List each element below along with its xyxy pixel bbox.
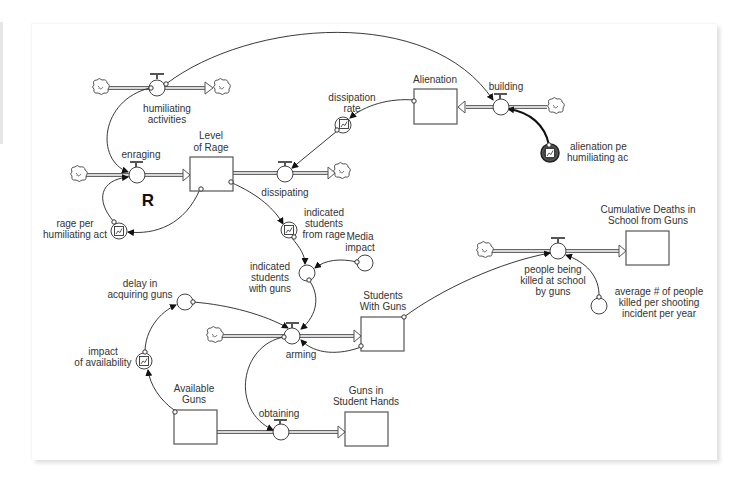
- reinforcing-loop-marker: R: [142, 191, 154, 210]
- converter-label: rate: [343, 103, 361, 114]
- flow-label: obtaining: [259, 408, 300, 419]
- valve-handle-icon: [551, 238, 565, 243]
- flow-label: dissipating: [261, 187, 308, 198]
- cloud-icon: [93, 79, 110, 95]
- converter-rage-per-act[interactable]: rage per humiliating act: [43, 218, 127, 240]
- converter-label: delay in: [123, 278, 157, 289]
- valve-handle-icon: [150, 74, 164, 79]
- cloud-icon: [548, 98, 565, 114]
- stock-label: With Guns: [360, 301, 407, 312]
- flow-humiliating-activities[interactable]: humiliating activities: [143, 74, 191, 125]
- valve-handle-icon: [494, 94, 507, 99]
- converter-label: with guns: [248, 283, 291, 294]
- converter-label: humiliating ac: [567, 152, 628, 163]
- flow-label: humiliating: [143, 103, 191, 114]
- flow-building[interactable]: building: [489, 81, 523, 115]
- stock-available-guns[interactable]: Available Guns: [173, 383, 217, 444]
- converter-avg-killed[interactable]: average # of people killed per shooting …: [591, 286, 704, 319]
- flow-label: arming: [286, 349, 317, 360]
- flow-label: activities: [148, 114, 186, 125]
- cloud-icon: [477, 242, 494, 258]
- converter-delay-acquiring[interactable]: delay in acquiring guns: [107, 278, 195, 310]
- flow-enraging[interactable]: enraging: [122, 149, 161, 183]
- converter-dissipation-rate[interactable]: dissipation rate: [328, 92, 375, 133]
- flow-label: building: [489, 81, 523, 92]
- converter-label: rage per: [56, 218, 94, 229]
- flow-obtaining[interactable]: obtaining: [259, 408, 300, 440]
- cloud-icon: [71, 166, 88, 182]
- converter-alienation-per-act[interactable]: alienation pe humiliating ac: [541, 141, 628, 163]
- stock-label: of Rage: [193, 142, 228, 153]
- flow-arming[interactable]: arming: [282, 323, 316, 360]
- converter-label: indicated: [304, 207, 344, 218]
- stock-flow-diagram: Level of Rage Alienation Students With G…: [0, 0, 749, 492]
- graph-icon: [340, 120, 349, 129]
- converter-impact-availability[interactable]: impact of availability: [74, 346, 152, 369]
- stock-label: Students: [363, 290, 402, 301]
- stock-label: Alienation: [413, 74, 457, 85]
- converter-label: average # of people: [615, 286, 704, 297]
- converter-label: humiliating act: [43, 229, 107, 240]
- converter-label: acquiring guns: [107, 289, 172, 300]
- converter-label: impact: [345, 242, 375, 253]
- stock-label: Available: [174, 383, 215, 394]
- flow-label: killed at school: [520, 275, 586, 286]
- stock-label: Guns: [182, 394, 206, 405]
- stock-guns-in-student-hands[interactable]: Guns in Student Hands: [333, 385, 399, 446]
- valve-handle-icon: [286, 323, 299, 328]
- stock-label: School from Guns: [608, 215, 688, 226]
- converter-label: students: [251, 272, 289, 283]
- graph-icon: [140, 357, 149, 366]
- stock-cumulative-deaths[interactable]: Cumulative Deaths in School from Guns: [600, 204, 695, 265]
- stock-label: Student Hands: [333, 396, 399, 407]
- graph-icon: [546, 149, 555, 158]
- cloud-icon: [214, 79, 231, 95]
- stock-students-with-guns[interactable]: Students With Guns: [359, 290, 407, 351]
- stock-alienation[interactable]: Alienation: [412, 74, 457, 124]
- flow-label: people being: [524, 264, 581, 275]
- converter-label: alienation pe: [570, 141, 627, 152]
- converter-label: dissipation: [328, 92, 375, 103]
- stock-label: Cumulative Deaths in: [600, 204, 695, 215]
- converter-label: from rage: [303, 229, 346, 240]
- converter-media-impact[interactable]: Media impact: [345, 231, 375, 271]
- converter-label: students: [305, 218, 343, 229]
- cloud-icon: [334, 163, 351, 179]
- cloud-icon: [207, 327, 224, 343]
- valve-handle-icon: [130, 162, 143, 167]
- flow-label: enraging: [122, 149, 161, 160]
- converter-indicated-from-rage[interactable]: indicated students from rage: [281, 207, 346, 240]
- stock-label: Guns in: [349, 385, 383, 396]
- converter-label: indicated: [250, 261, 290, 272]
- converter-label: incident per year: [622, 308, 697, 319]
- flow-label: by guns: [535, 286, 570, 297]
- graph-icon: [285, 226, 294, 235]
- converter-label: Media: [346, 231, 374, 242]
- stock-level-of-rage[interactable]: Level of Rage: [190, 130, 233, 191]
- stock-label: Level: [199, 130, 223, 141]
- graph-icon: [115, 227, 124, 236]
- converter-label: killed per shooting: [619, 297, 700, 308]
- flow-people-killed[interactable]: people being killed at school by guns: [520, 238, 586, 297]
- converter-indicated-with-guns[interactable]: indicated students with guns: [248, 261, 315, 294]
- converter-label: impact: [88, 346, 118, 357]
- converter-label: of availability: [74, 357, 131, 368]
- flow-dissipating[interactable]: dissipating: [261, 162, 308, 198]
